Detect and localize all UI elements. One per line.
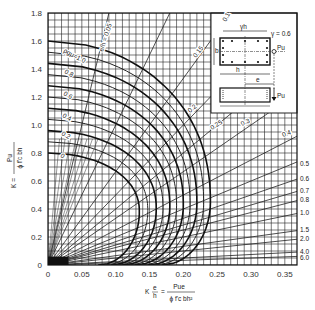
svg-text:γh: γh bbox=[240, 23, 247, 31]
y-tick-label: 1.4 bbox=[31, 65, 43, 74]
svg-text:=: = bbox=[161, 288, 165, 295]
x-tick-label: 0.05 bbox=[74, 270, 90, 279]
svg-text:γ = 0.6: γ = 0.6 bbox=[271, 30, 291, 38]
eccentricity-label: 6.0 bbox=[300, 254, 309, 261]
eccentricity-label: 0.5 bbox=[300, 160, 309, 167]
x-tick-label: 0.20 bbox=[176, 270, 192, 279]
eccentricity-label: 0.25 bbox=[209, 118, 224, 131]
svg-text:Pu: Pu bbox=[6, 154, 13, 162]
y-tick-label: 0.2 bbox=[31, 233, 43, 242]
y-tick-label: 0 bbox=[38, 261, 43, 270]
rho-curve-label: ρgμ=1.0 bbox=[62, 47, 87, 65]
y-tick-label: 0.6 bbox=[31, 177, 43, 186]
svg-text:h: h bbox=[153, 292, 157, 299]
svg-text:e: e bbox=[256, 76, 260, 83]
y-tick-label: 1.2 bbox=[31, 93, 43, 102]
x-tick-label: 0.10 bbox=[108, 270, 124, 279]
x-tick-label: 0.30 bbox=[243, 270, 259, 279]
y-tick-label: 1.8 bbox=[31, 9, 43, 18]
x-tick-label: 0 bbox=[46, 270, 51, 279]
y-tick-label: 1.0 bbox=[31, 121, 43, 130]
x-tick-label: 0.35 bbox=[277, 270, 293, 279]
svg-text:Pue: Pue bbox=[173, 283, 185, 290]
svg-text:Pu: Pu bbox=[277, 92, 285, 99]
svg-text:h: h bbox=[236, 66, 240, 73]
eccentricity-label: 0.6 bbox=[300, 175, 309, 182]
svg-text:K =: K = bbox=[10, 178, 17, 188]
eccentricity-label: 0.4 bbox=[281, 128, 292, 138]
eccentricity-label: 1.0 bbox=[300, 209, 309, 216]
section-inset: γhγ = 0.6bhePuPu bbox=[211, 13, 297, 113]
svg-text:e: e bbox=[153, 284, 157, 291]
eccentricity-label: 1.5 bbox=[300, 226, 309, 233]
eccentricity-label: 2.0 bbox=[300, 235, 309, 242]
y-tick-label: 0.8 bbox=[31, 149, 43, 158]
svg-text:Pu: Pu bbox=[277, 44, 285, 51]
y-tick-label: 1.6 bbox=[31, 37, 43, 46]
svg-text:K: K bbox=[145, 288, 150, 295]
y-axis-title: K =Puϕ f'c bh bbox=[6, 142, 24, 188]
y-tick-label: 0.4 bbox=[31, 205, 43, 214]
interaction-chart: γhγ = 0.6bhePuPu ρgμ=1.00.80.60.40.20e/h… bbox=[0, 0, 315, 310]
x-axis-title: Keh=Pueϕ f'c bh² bbox=[145, 283, 195, 303]
svg-text:ϕ f'c bh²: ϕ f'c bh² bbox=[170, 295, 194, 303]
x-tick-label: 0.15 bbox=[142, 270, 158, 279]
x-tick-label: 0.25 bbox=[209, 270, 225, 279]
eccentricity-label: 0.7 bbox=[300, 187, 309, 194]
eccentricity-label: 0.8 bbox=[300, 196, 309, 203]
svg-text:b: b bbox=[215, 47, 219, 54]
svg-text:ϕ f'c bh: ϕ f'c bh bbox=[16, 147, 24, 168]
